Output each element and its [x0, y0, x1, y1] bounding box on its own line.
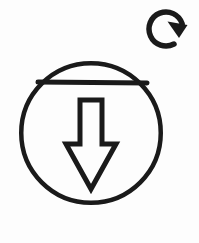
diagram-svg	[0, 0, 199, 243]
rotate-clockwise-icon[interactable]	[149, 12, 187, 46]
down-arrow-outline	[66, 100, 116, 189]
figure-canvas: Downward arrow inside circle with clockw…	[0, 0, 199, 243]
horizontal-chord-line	[38, 82, 147, 83]
